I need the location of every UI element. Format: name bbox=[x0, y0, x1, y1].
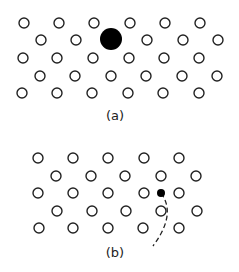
lattice-atom bbox=[19, 18, 29, 28]
lattice-atom bbox=[88, 53, 98, 63]
lattice-atom bbox=[103, 223, 113, 233]
lattice-atom bbox=[17, 88, 27, 98]
lattice-atom bbox=[194, 88, 204, 98]
lattice-atom bbox=[71, 35, 81, 45]
lattice-atom bbox=[54, 18, 64, 28]
lattice-atom bbox=[192, 206, 202, 216]
lattice-atom bbox=[103, 153, 113, 163]
lattice-atom bbox=[34, 223, 44, 233]
lattice-atom bbox=[158, 88, 168, 98]
lattice-atom bbox=[124, 53, 134, 63]
lattice-diagram: (a) (b) bbox=[0, 0, 239, 272]
lattice-atom bbox=[141, 71, 151, 81]
lattice-atom bbox=[52, 88, 62, 98]
lattice-atom bbox=[18, 53, 28, 63]
lattice-atom bbox=[139, 188, 149, 198]
lattice-atom bbox=[33, 153, 43, 163]
diffusion-path bbox=[153, 193, 167, 246]
lattice-atom bbox=[87, 88, 97, 98]
lattice-atom bbox=[156, 206, 166, 216]
lattice-atom bbox=[33, 188, 43, 198]
lattice-atom bbox=[52, 53, 62, 63]
panel-a-lattice bbox=[17, 18, 223, 98]
lattice-atom bbox=[35, 71, 45, 81]
lattice-atom bbox=[89, 18, 99, 28]
lattice-atom bbox=[120, 171, 130, 181]
lattice-atom bbox=[87, 206, 97, 216]
lattice-atom bbox=[138, 223, 148, 233]
lattice-atom bbox=[174, 188, 184, 198]
substitutional-atom bbox=[100, 28, 122, 50]
lattice-atom bbox=[139, 153, 149, 163]
panel-b-lattice bbox=[33, 153, 202, 246]
lattice-atom bbox=[212, 71, 222, 81]
lattice-atom bbox=[70, 71, 80, 81]
lattice-atom bbox=[36, 35, 46, 45]
lattice-atom bbox=[125, 18, 135, 28]
lattice-atom bbox=[159, 53, 169, 63]
interstitial-atom bbox=[157, 189, 165, 197]
lattice-atom bbox=[86, 171, 96, 181]
panel-b-label: (b) bbox=[106, 245, 124, 260]
lattice-atom bbox=[174, 223, 184, 233]
lattice-atom bbox=[68, 223, 78, 233]
lattice-atom bbox=[51, 171, 61, 181]
lattice-atom bbox=[178, 35, 188, 45]
lattice-atom bbox=[174, 153, 184, 163]
lattice-atom bbox=[194, 53, 204, 63]
lattice-atom bbox=[142, 35, 152, 45]
lattice-atom bbox=[106, 71, 116, 81]
lattice-atom bbox=[213, 35, 223, 45]
lattice-atom bbox=[160, 18, 170, 28]
lattice-atom bbox=[121, 206, 131, 216]
lattice-atom bbox=[68, 188, 78, 198]
lattice-atom bbox=[191, 171, 201, 181]
panel-a-label: (a) bbox=[106, 108, 124, 123]
lattice-atom bbox=[123, 88, 133, 98]
lattice-atom bbox=[177, 71, 187, 81]
lattice-atom bbox=[103, 188, 113, 198]
lattice-atom bbox=[52, 206, 62, 216]
lattice-atom bbox=[195, 18, 205, 28]
lattice-atom bbox=[68, 153, 78, 163]
lattice-atom bbox=[156, 171, 166, 181]
